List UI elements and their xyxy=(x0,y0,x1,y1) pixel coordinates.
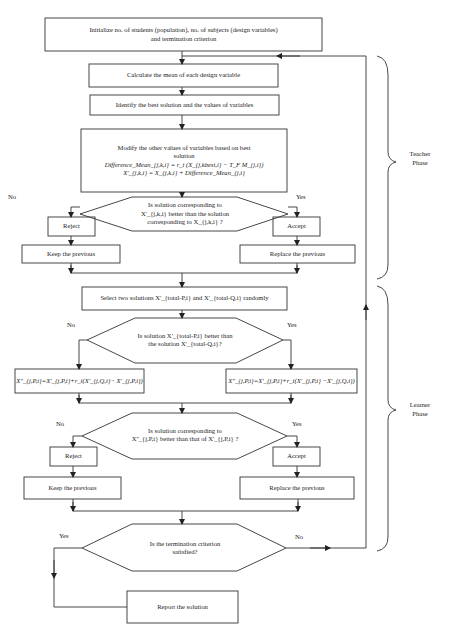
decision2-no-label: No xyxy=(67,321,75,328)
report-text: Report the solution xyxy=(127,591,238,623)
teacher-phase-brace xyxy=(377,56,396,279)
learner-phase-brace xyxy=(377,286,396,551)
modify-line2: solution xyxy=(173,152,194,160)
keep2-text: Keep the previous xyxy=(24,477,121,499)
keep2-label: Keep the previous xyxy=(49,484,97,492)
update-formula: X'_{j,k,i} = X_{j,k,i} + Difference_Mean… xyxy=(123,169,245,177)
accept1-label: Accept xyxy=(287,222,306,230)
decision4-line1: Is the termination criterion xyxy=(150,540,221,548)
decision1-yes-label: Yes xyxy=(296,193,306,200)
decision2-yes-label: Yes xyxy=(287,321,297,328)
accept1-text: Accept xyxy=(273,217,320,236)
reject2-text: Reject xyxy=(50,447,97,466)
teacher-phase-line2: Phase xyxy=(400,158,440,167)
select-label: Select two solutions X'_{total-P,i} and … xyxy=(100,294,268,302)
reject1-text: Reject xyxy=(48,217,95,236)
calc-mean-label: Calculate the mean of each design variab… xyxy=(127,71,240,79)
learner-phase-label: Learner Phase xyxy=(400,400,440,418)
replace1-label: Replace the previous xyxy=(270,250,325,258)
decision2-line1: Is solution X'_{total-P,i} better than xyxy=(138,332,233,340)
select-text: Select two solutions X'_{total-P,i} and … xyxy=(82,287,287,310)
decision1-line2: X'_{j,k,i} better than the solution xyxy=(141,210,229,218)
decision4-yes-label: Yes xyxy=(59,532,69,539)
decision3-text: Is solution corresponding to X''_{j,P,i}… xyxy=(115,421,255,449)
decision2-text: Is solution X'_{total-P,i} better than t… xyxy=(120,325,250,355)
learner-phase-line1: Learner xyxy=(400,400,440,409)
init-line1: Initialize no. of students (population),… xyxy=(89,26,277,34)
decision3-yes-label: Yes xyxy=(292,420,302,427)
init-text: Initialize no. of students (population),… xyxy=(45,18,322,51)
init-line2: and termination criterion xyxy=(151,35,217,43)
formula-right-text: X''_{j,P,i}=X'_{j,P,i}+r_i(X'_{j,P,i} −X… xyxy=(226,369,357,393)
formula-left-label: X''_{j,P,i}=X'_{j,P,i}+r_i(X'_{j,Q,i}− X… xyxy=(16,377,143,385)
decision3-line2: X''_{j,P,i} better than that of X'_{j,P,… xyxy=(132,435,239,443)
formula-left-text: X''_{j,P,i}=X'_{j,P,i}+r_i(X'_{j,Q,i}− X… xyxy=(15,369,144,393)
modify-text: Modify the other values of variables bas… xyxy=(81,129,287,192)
decision1-no-label: No xyxy=(8,193,16,200)
reject1-label: Reject xyxy=(63,222,80,230)
decision4-no-label: No xyxy=(295,533,303,540)
accept2-label: Accept xyxy=(287,452,306,460)
decision2-line2: the solution X'_{total-Q,i}? xyxy=(148,340,221,348)
decision3-no-label: No xyxy=(56,420,64,427)
decision4-text: Is the termination criterion satisfied? xyxy=(120,536,250,560)
accept2-text: Accept xyxy=(273,447,320,466)
reject2-label: Reject xyxy=(65,452,82,460)
decision1-line3: corresponding to X_{j,k,i} ? xyxy=(147,218,222,226)
report-label: Report the solution xyxy=(157,603,208,611)
identify-best-label: Identify the best solution and the value… xyxy=(116,101,254,109)
difference-mean-formula: Difference_Mean_{j,k,i} = r_i (X_{j,kbes… xyxy=(105,161,264,169)
teacher-phase-line1: Teacher xyxy=(400,149,440,158)
keep1-text: Keep the previous xyxy=(22,245,120,263)
identify-best-text: Identify the best solution and the value… xyxy=(90,95,279,115)
replace1-text: Replace the previous xyxy=(240,245,355,263)
decision3-line1: Is solution corresponding to xyxy=(148,427,222,435)
formula-right-label: X''_{j,P,i}=X'_{j,P,i}+r_i(X'_{j,P,i} −X… xyxy=(228,377,355,385)
teacher-phase-label: Teacher Phase xyxy=(400,149,440,167)
modify-line1: Modify the other values of variables bas… xyxy=(118,144,251,152)
keep1-label: Keep the previous xyxy=(47,250,95,258)
learner-phase-line2: Phase xyxy=(400,409,440,418)
replace2-text: Replace the previous xyxy=(240,477,354,499)
decision1-line1: Is solution corresponding to xyxy=(148,201,222,209)
decision4-line2: satisfied? xyxy=(173,548,198,556)
decision1-text: Is solution corresponding to X'_{j,k,i} … xyxy=(120,199,250,229)
calc-mean-text: Calculate the mean of each design variab… xyxy=(89,64,278,87)
replace2-label: Replace the previous xyxy=(269,484,324,492)
